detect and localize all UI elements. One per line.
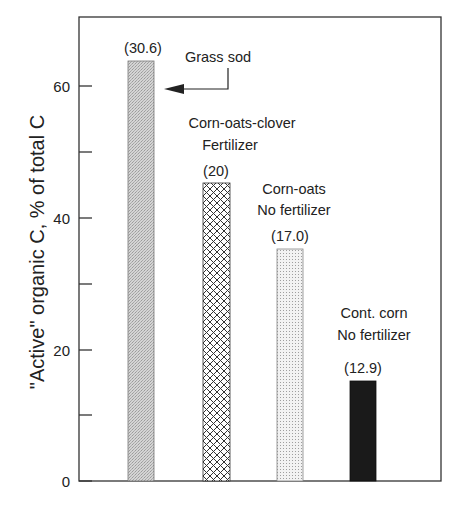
bar-corn-oats-clover [203, 183, 230, 481]
annotation-grass-sod: Grass sod [185, 49, 251, 65]
arrow-icon [164, 68, 228, 94]
y-tick-label-40: 40 [53, 210, 70, 227]
y-axis [79, 86, 92, 481]
bar-chart: 0 20 40 60 "Active" organic C, % of tota… [0, 0, 462, 507]
annotation-corn-oats-clover-2: Fertilizer [202, 137, 258, 153]
annotation-cont-corn-2: No fertilizer [337, 327, 410, 343]
y-tick-label-0: 0 [62, 473, 70, 490]
value-label-grass-sod: (30.6) [124, 40, 162, 56]
annotation-corn-oats-clover-1: Corn-oats-clover [188, 115, 295, 131]
bar-grass-sod [128, 61, 154, 481]
value-label-corn-oats-clover: (20) [203, 163, 229, 179]
value-label-cont-corn: (12.9) [344, 360, 382, 376]
bar-cont-corn [350, 381, 376, 481]
y-axis-label: "Active" organic C, % of total C [26, 115, 48, 389]
annotation-corn-oats-1: Corn-oats [262, 181, 326, 197]
annotation-cont-corn-1: Cont. corn [341, 305, 408, 321]
y-tick-label-60: 60 [53, 78, 70, 95]
y-tick-label-20: 20 [53, 342, 70, 359]
value-label-corn-oats: (17.0) [271, 228, 309, 244]
annotation-corn-oats-2: No fertilizer [257, 202, 330, 218]
bar-corn-oats [277, 249, 303, 481]
